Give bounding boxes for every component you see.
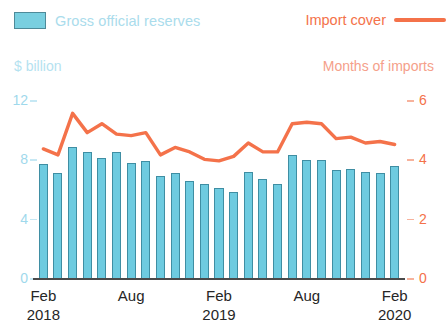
x-axis-labels: Feb2018AugFeb2019AugFeb2020 bbox=[0, 286, 440, 334]
x-axis-label-year: 2020 bbox=[360, 305, 430, 324]
x-axis-label-month: Aug bbox=[118, 287, 145, 304]
right-tick-mark bbox=[407, 159, 414, 161]
right-tick-mark bbox=[407, 219, 414, 221]
right-tick-label: 6 bbox=[419, 93, 439, 107]
x-axis-label: Aug bbox=[272, 286, 342, 305]
x-axis-label: Feb2018 bbox=[8, 286, 78, 324]
x-axis-label: Feb2019 bbox=[184, 286, 254, 324]
x-axis-label-month: Aug bbox=[293, 287, 320, 304]
right-tick-label: 2 bbox=[419, 212, 439, 226]
right-tick-label: 4 bbox=[419, 152, 439, 166]
right-tick-mark bbox=[407, 278, 414, 280]
left-tick-label: 12 bbox=[8, 93, 28, 107]
x-axis-label-year: 2018 bbox=[8, 305, 78, 324]
legend-item-line: Import cover bbox=[305, 12, 440, 28]
legend-bar-swatch-icon bbox=[14, 12, 46, 29]
legend-bars-label: Gross official reserves bbox=[55, 13, 200, 29]
left-axis-title: $ billion bbox=[14, 58, 61, 74]
line-series bbox=[36, 100, 402, 280]
right-axis-title: Months of imports bbox=[323, 58, 434, 74]
legend-line-label: Import cover bbox=[305, 12, 386, 28]
x-axis-baseline bbox=[33, 278, 405, 280]
x-axis-label: Feb2020 bbox=[360, 286, 430, 324]
left-tick-label: 8 bbox=[8, 152, 28, 166]
x-axis-label-year: 2019 bbox=[184, 305, 254, 324]
right-tick-label: 0 bbox=[419, 271, 439, 285]
legend-line-swatch-icon bbox=[394, 18, 446, 22]
x-axis-label: Aug bbox=[96, 286, 166, 305]
chart-legend: Gross official reserves Import cover bbox=[0, 12, 440, 42]
legend-item-bars: Gross official reserves bbox=[14, 12, 200, 29]
left-tick-label: 0 bbox=[8, 271, 28, 285]
x-axis-label-month: Feb bbox=[382, 287, 408, 304]
x-axis-label-month: Feb bbox=[30, 287, 56, 304]
x-axis-label-month: Feb bbox=[206, 287, 232, 304]
right-tick-mark bbox=[407, 100, 414, 102]
plot-area bbox=[36, 100, 402, 280]
left-tick-label: 4 bbox=[8, 212, 28, 226]
